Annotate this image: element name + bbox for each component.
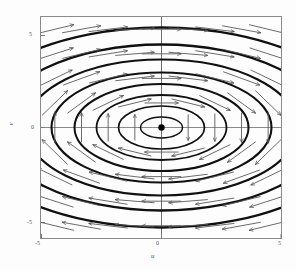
x-tick-label-5: 5 [278,240,281,246]
y-axis-title: v [7,122,15,125]
x-axis-title: u [151,252,155,260]
y-tick-label-neg5: -5 [27,219,32,225]
y-tick-label-0: 0 [31,124,34,130]
x-tick-label-neg5: -5 [35,240,40,246]
fixed-point-center [158,124,164,130]
y-tick-label-5: 5 [29,31,32,37]
phase-portrait-figure: -5 0 5 5 0 -5 u v [0,0,296,271]
x-tick-label-0: 0 [156,240,159,246]
plot-canvas [0,0,296,271]
